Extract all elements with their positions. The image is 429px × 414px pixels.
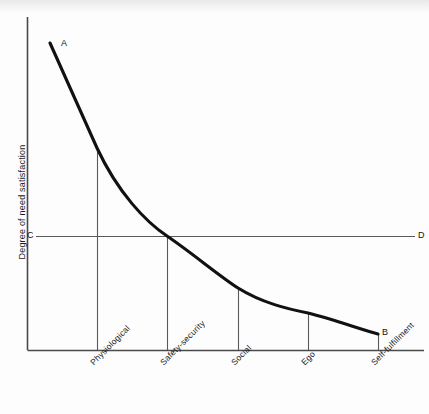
satisfaction-curve — [50, 43, 378, 334]
need-satisfaction-chart: Degree of need satisfaction Physiologica… — [0, 0, 429, 414]
y-axis-title: Degree of need satisfaction — [17, 112, 27, 292]
annotation-label-b: B — [382, 327, 388, 337]
annotation-label-a: A — [61, 38, 67, 48]
annotation-label-d: D — [418, 230, 425, 240]
chart-plot-area — [0, 0, 429, 414]
annotation-label-c: C — [27, 230, 34, 240]
